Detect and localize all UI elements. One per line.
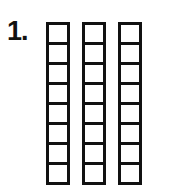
tens-rod-3	[118, 22, 142, 185]
unit-cell	[82, 182, 106, 185]
tens-rod-1	[46, 22, 70, 185]
problem-number: 1.	[7, 18, 28, 45]
tens-rod-2	[82, 22, 106, 185]
unit-cell	[46, 182, 70, 185]
unit-cell	[118, 182, 142, 185]
